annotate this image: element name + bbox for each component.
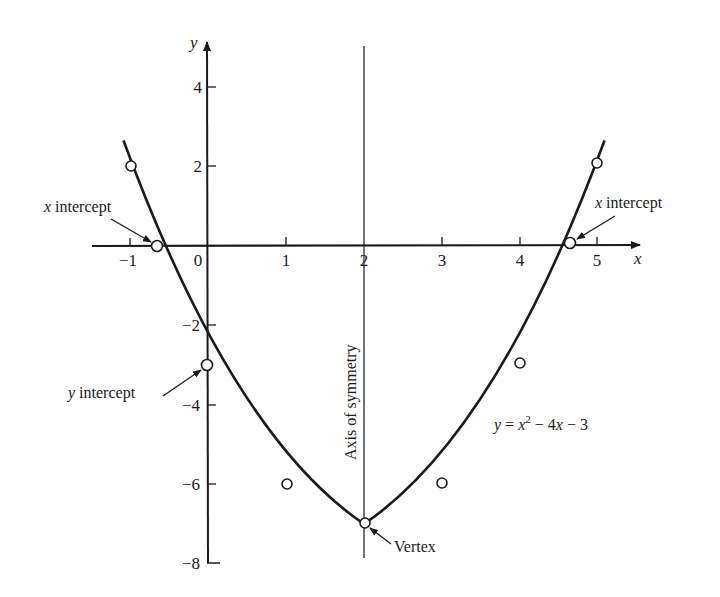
- x-tick-label: 2: [360, 251, 369, 270]
- x-tick-label: 3: [438, 251, 447, 270]
- y-tick-label: −6: [182, 475, 200, 494]
- x-tick-label: −1: [119, 251, 137, 270]
- point-5-2: [592, 158, 602, 168]
- x-tick-label: 0: [194, 251, 203, 270]
- x-axis: [92, 245, 640, 246]
- point-neg1-2: [126, 161, 136, 171]
- vertex-arrow: [370, 528, 391, 544]
- x-intercept-right-label: x intercept: [594, 194, 663, 212]
- point-4-neg3: [515, 358, 525, 368]
- y-tick-label: 4: [194, 78, 203, 97]
- y-axis: [207, 42, 208, 563]
- vertex-label: Vertex: [394, 538, 436, 555]
- axis-of-symmetry-label: Axis of symmetry: [342, 344, 360, 460]
- point-y-intercept: [202, 360, 213, 371]
- x-intercept-left-arrow: [111, 219, 151, 242]
- y-axis-label: y: [188, 33, 198, 52]
- parabola-diagram: −1 0 1 2 3 4 5 4 2 −2 −4 −6 −8 y x: [0, 0, 720, 597]
- point-x-intercept-right: [565, 238, 576, 249]
- point-vertex: [360, 518, 370, 528]
- x-tick-label: 1: [282, 251, 291, 270]
- point-1-neg6: [282, 479, 292, 489]
- x-tick-label: 4: [516, 251, 525, 270]
- x-axis-label: x: [633, 249, 642, 268]
- x-intercept-left-label: x intercept: [43, 198, 112, 216]
- y-tick-labels: 4 2 −2 −4 −6 −8: [182, 78, 203, 573]
- y-tick-label: −8: [182, 554, 200, 573]
- x-tick-label: 5: [593, 251, 602, 270]
- point-3-neg6: [437, 478, 447, 488]
- y-tick-label: 2: [194, 157, 203, 176]
- y-tick-label: −4: [182, 396, 201, 415]
- y-intercept-arrow: [163, 370, 201, 396]
- y-intercept-label: y intercept: [66, 384, 136, 402]
- x-intercept-right-arrow: [577, 216, 615, 239]
- point-x-intercept-left: [152, 241, 163, 252]
- x-tick-labels: −1 0 1 2 3 4 5: [119, 251, 601, 270]
- y-tick-label: −2: [182, 316, 200, 335]
- equation-label: y = x2 − 4x − 3: [492, 413, 588, 434]
